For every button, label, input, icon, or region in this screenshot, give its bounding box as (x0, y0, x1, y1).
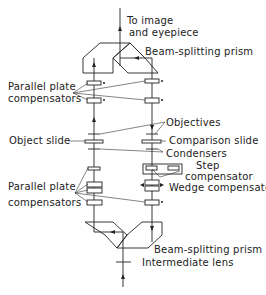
step-compensator (143, 164, 182, 174)
label-wedge-compensator: Wedge compensator (169, 182, 266, 193)
label-bottom-prism: Beam-splitting prism (154, 244, 262, 255)
label-intermediate-lens: Intermediate lens (142, 257, 234, 268)
arrow-up-icon (121, 274, 125, 279)
intermediate-lens (116, 262, 131, 279)
optical-diagram: To image and eyepiece Beam-splitting pri… (0, 0, 266, 295)
label-to-image: To image (126, 15, 173, 26)
label-step-compensator-2: compensator (185, 171, 254, 182)
arrow-left-icon (134, 56, 139, 60)
arrow-down-icon (150, 125, 154, 130)
output-beam (118, 8, 122, 66)
label-upper-compensators-1: Parallel plate (8, 81, 76, 92)
label-and-eyepiece: and eyepiece (129, 27, 199, 38)
label-lower-compensators-2: compensators (8, 197, 81, 208)
label-comparison-slide: Comparison slide (169, 135, 259, 146)
label-step-compensator-1: Step (196, 160, 220, 171)
label-object-slide: Object slide (9, 135, 70, 146)
arrow-down-icon (150, 226, 154, 231)
arrow-up-icon (118, 26, 122, 31)
slides (85, 140, 161, 143)
label-objectives: Objectives (166, 117, 221, 128)
arrow-up-icon (92, 62, 96, 67)
label-top-prism: Beam-splitting prism (145, 46, 253, 57)
arrow-up-icon (92, 117, 96, 122)
arrow-left-icon (110, 230, 115, 234)
label-lower-compensators-1: Parallel plate (8, 181, 76, 192)
comparison-beam-axis (150, 58, 154, 242)
label-condensers: Condensers (166, 148, 227, 159)
label-upper-compensators-2: compensators (8, 93, 81, 104)
